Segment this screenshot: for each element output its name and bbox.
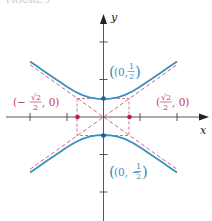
vertex-bottom-label: ( (0, − 1 2 ): [109, 162, 148, 181]
svg-text:1: 1: [129, 62, 134, 71]
svg-text:√2: √2: [31, 93, 41, 102]
svg-text:): ): [142, 163, 148, 181]
figure-caption-fragment: FIGURE 3: [6, 0, 50, 5]
svg-text:): ): [135, 63, 141, 81]
svg-text:2: 2: [136, 172, 141, 181]
svg-text:√2: √2: [161, 93, 171, 102]
vertex-top-label: ( (0, 1 2 ): [109, 62, 141, 81]
svg-text:(: (: [156, 96, 160, 108]
focus-right-point: [127, 115, 132, 120]
svg-text:, 0): , 0): [42, 96, 59, 108]
svg-text:(−: (−: [13, 96, 26, 108]
vertex-top-point: [101, 96, 106, 101]
focus-right-label: ( √2 2 , 0): [156, 93, 189, 112]
svg-text:2: 2: [129, 72, 134, 81]
hyperbola-figure: FIGURE 3: [0, 0, 212, 221]
svg-text:1: 1: [136, 162, 141, 171]
focus-left-label: (− √2 2 , 0): [13, 93, 59, 112]
hyperbola-plot: y x ( (0, 1 2 ) ( (0, − 1 2 ) (− √2 2 , …: [0, 0, 212, 221]
svg-text:2: 2: [33, 103, 38, 112]
x-axis-arrow-icon: [199, 114, 209, 121]
y-axis-label: y: [110, 11, 118, 24]
x-axis-label: x: [200, 124, 207, 137]
y-axis-arrow-icon: [100, 14, 107, 24]
focus-left-point: [75, 115, 80, 120]
vertex-bottom-point: [101, 133, 106, 138]
svg-text:, 0): , 0): [172, 96, 189, 108]
svg-text:(0,: (0,: [114, 66, 128, 78]
svg-text:2: 2: [163, 103, 168, 112]
